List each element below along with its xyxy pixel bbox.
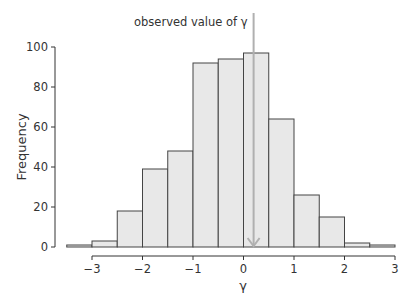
histogram-bar <box>218 59 243 247</box>
histogram-bar <box>294 195 319 247</box>
histogram-bar <box>143 169 168 247</box>
y-tick-label: 60 <box>33 120 48 134</box>
histogram-bars <box>67 53 395 247</box>
histogram-bar <box>370 245 395 247</box>
histogram-bar <box>193 63 218 247</box>
x-tick-label: −2 <box>134 262 151 276</box>
x-tick-label: 2 <box>341 262 348 276</box>
y-tick-label: 100 <box>26 40 48 54</box>
observed-value-label: observed value of γ <box>134 15 248 29</box>
y-tick-label: 20 <box>33 200 48 214</box>
x-tick-label: −1 <box>185 262 202 276</box>
y-tick-label: 40 <box>33 160 48 174</box>
x-axis: −3−2−10123 <box>84 256 399 276</box>
histogram-bar <box>92 241 117 247</box>
histogram-bar <box>319 217 344 247</box>
histogram-chart: observed value of γ 020406080100 −3−2−10… <box>0 0 410 303</box>
histogram-bar <box>117 211 142 247</box>
x-tick-label: 1 <box>290 262 297 276</box>
y-tick-label: 80 <box>33 80 48 94</box>
x-axis-label: γ <box>239 278 247 293</box>
histogram-bar <box>67 245 92 247</box>
histogram-bar <box>345 243 370 247</box>
x-tick-label: 0 <box>240 262 247 276</box>
histogram-bar <box>168 151 193 247</box>
y-axis: 020406080100 <box>26 40 55 254</box>
y-axis-label: Frequency <box>14 113 29 180</box>
histogram-bar <box>244 53 269 247</box>
x-tick-label: 3 <box>391 262 398 276</box>
histogram-bar <box>269 119 294 247</box>
x-tick-label: −3 <box>84 262 101 276</box>
y-tick-label: 0 <box>41 240 48 254</box>
